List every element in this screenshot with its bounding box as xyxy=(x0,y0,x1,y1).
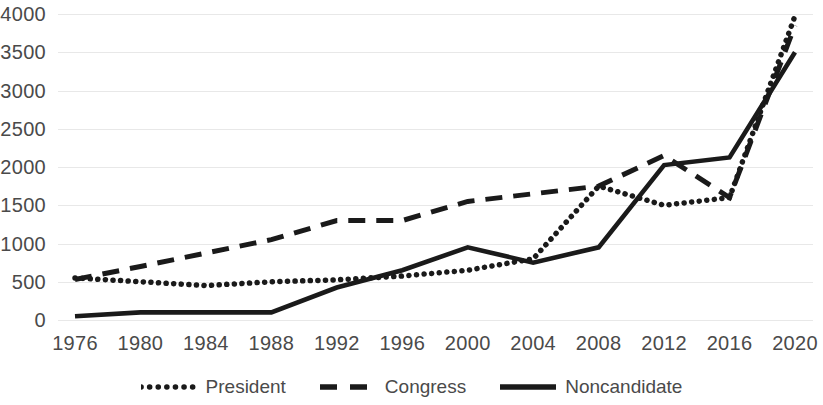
y-axis: 40003500300025002000150010005000 xyxy=(0,0,52,340)
x-axis-tick-label: 1984 xyxy=(183,332,229,355)
x-axis-tick-label: 1988 xyxy=(249,332,295,355)
legend-item-noncandidate[interactable]: Noncandidate xyxy=(500,376,682,398)
y-axis-tick-label: 3000 xyxy=(0,79,46,102)
y-axis-tick-label: 1000 xyxy=(0,232,46,255)
chart-legend: PresidentCongressNoncandidate xyxy=(0,372,823,402)
series-layer xyxy=(58,0,813,321)
series-line-congress xyxy=(75,25,795,279)
series-line-president xyxy=(75,16,795,286)
y-axis-tick-label: 4000 xyxy=(0,3,46,26)
line-chart: 40003500300025002000150010005000 1976198… xyxy=(0,0,823,405)
legend-swatch-dotted-icon xyxy=(141,381,197,393)
series-line-noncandidate xyxy=(75,52,795,316)
x-axis: 1976198019841988199219962000200420082012… xyxy=(58,332,813,366)
y-axis-tick-label: 2000 xyxy=(0,156,46,179)
x-axis-tick-label: 1992 xyxy=(314,332,360,355)
legend-swatch-solid-icon xyxy=(500,381,556,393)
y-axis-tick-label: 2500 xyxy=(0,117,46,140)
x-axis-tick-label: 1976 xyxy=(52,332,98,355)
x-axis-tick-label: 2016 xyxy=(707,332,753,355)
x-axis-tick-label: 2000 xyxy=(445,332,491,355)
x-axis-tick-label: 2008 xyxy=(576,332,622,355)
y-axis-tick-label: 500 xyxy=(12,270,46,293)
plot-area xyxy=(58,0,813,321)
legend-label: President xyxy=(206,376,286,398)
x-axis-tick-label: 2020 xyxy=(772,332,818,355)
x-axis-tick-label: 1980 xyxy=(118,332,164,355)
legend-label: Noncandidate xyxy=(565,376,682,398)
legend-item-congress[interactable]: Congress xyxy=(320,376,466,398)
x-axis-tick-label: 1996 xyxy=(379,332,425,355)
y-axis-tick-label: 3500 xyxy=(0,41,46,64)
y-axis-tick-label: 1500 xyxy=(0,194,46,217)
y-axis-tick-label: 0 xyxy=(35,309,46,332)
legend-swatch-dashed-icon xyxy=(320,381,376,393)
legend-label: Congress xyxy=(385,376,466,398)
legend-item-president[interactable]: President xyxy=(141,376,286,398)
x-axis-tick-label: 2012 xyxy=(641,332,687,355)
x-axis-tick-label: 2004 xyxy=(510,332,556,355)
